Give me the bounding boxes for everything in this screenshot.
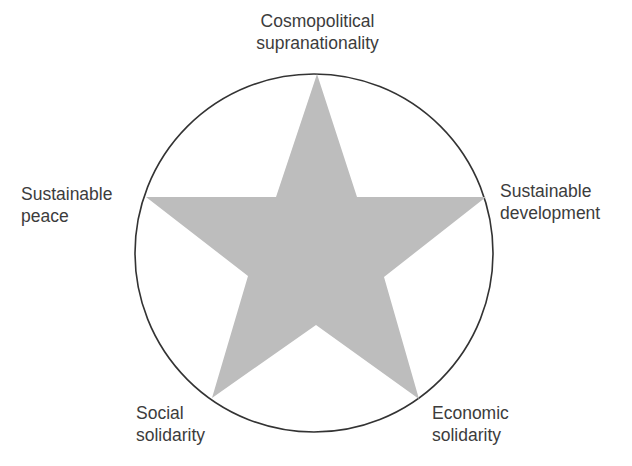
label-left-line1: Sustainable bbox=[21, 183, 112, 205]
label-bottom-left-line2: solidarity bbox=[136, 424, 205, 446]
label-right-line1: Sustainable bbox=[500, 180, 600, 202]
label-bottom-right-line1: Economic bbox=[432, 402, 509, 424]
label-sustainable-peace: Sustainable peace bbox=[21, 183, 112, 227]
five-point-star bbox=[146, 74, 486, 399]
star-circle-diagram bbox=[0, 0, 632, 466]
label-bottom-right-line2: solidarity bbox=[432, 424, 509, 446]
label-top-line1: Cosmopolitical bbox=[0, 10, 632, 32]
label-bottom-left-line1: Social bbox=[136, 402, 205, 424]
label-right-line2: development bbox=[500, 202, 600, 224]
label-cosmopolitical-supranationality: Cosmopolitical supranationality bbox=[0, 10, 632, 54]
label-economic-solidarity: Economic solidarity bbox=[432, 402, 509, 446]
label-top-line2: supranationality bbox=[0, 32, 632, 54]
label-left-line2: peace bbox=[21, 205, 112, 227]
label-sustainable-development: Sustainable development bbox=[500, 180, 600, 224]
label-social-solidarity: Social solidarity bbox=[136, 402, 205, 446]
